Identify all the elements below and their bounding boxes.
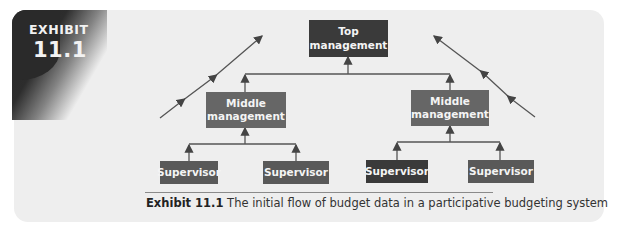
- figure-caption: Exhibit 11.1 The initial flow of budget …: [146, 196, 608, 210]
- caption-text: The initial flow of budget data in a par…: [227, 196, 608, 210]
- caption-rule: [145, 192, 493, 193]
- top-management-box: Top management: [309, 20, 388, 57]
- supervisor-box-4: Supervisor: [468, 160, 534, 183]
- top-management-line2: management: [310, 39, 388, 52]
- caption-label: Exhibit 11.1: [146, 196, 223, 210]
- supervisor-box-2: Supervisor: [263, 161, 329, 184]
- supervisor-box-3: Supervisor: [366, 160, 428, 183]
- top-management-line1: Top: [338, 25, 359, 38]
- middle-left-line2: management: [207, 110, 285, 123]
- middle-management-right-box: Middle management: [411, 90, 489, 126]
- middle-management-left-box: Middle management: [206, 92, 286, 128]
- middle-left-line1: Middle: [226, 97, 266, 110]
- middle-right-line2: management: [411, 108, 489, 121]
- supervisor-box-1: Supervisor: [160, 161, 218, 184]
- middle-right-line1: Middle: [430, 95, 470, 108]
